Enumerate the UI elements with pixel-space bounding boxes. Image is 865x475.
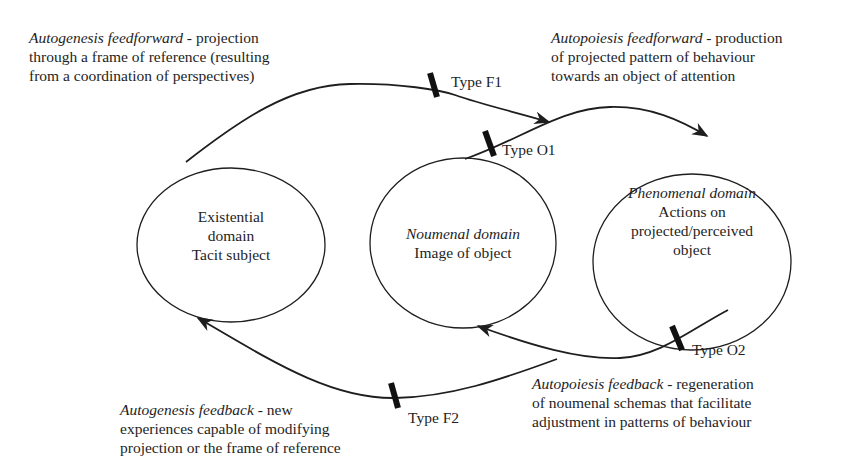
phenomenal-domain-text: Phenomenal domain Actions on projected/p…: [602, 183, 782, 259]
autopoiesis-feedforward-title: Autopoiesis feedforward: [551, 29, 702, 46]
noumenal-title: Noumenal domain: [406, 225, 520, 242]
existential-line-1: Existential: [161, 207, 301, 226]
autogenesis-feedforward-line-3: from a coordination of perspectives): [29, 66, 270, 85]
autogenesis-feedback-annotation: Autogenesis feedback - new experiences c…: [120, 400, 341, 457]
autopoiesis-feedback-line-1: - regeneration: [663, 375, 753, 392]
autogenesis-feedforward-annotation: Autogenesis feedforward - projection thr…: [29, 28, 270, 85]
autogenesis-feedback-title: Autogenesis feedback: [120, 401, 254, 418]
autogenesis-feedforward-line-2: through a frame of reference (resulting: [29, 47, 270, 66]
phenomenal-line-3: object: [602, 240, 782, 259]
type-f2-marker: [391, 383, 398, 408]
autopoiesis-feedback-annotation: Autopoiesis feedback - regeneration of n…: [532, 374, 754, 431]
autogenesis-feedforward-title: Autogenesis feedforward: [29, 29, 183, 46]
existential-line-2: domain: [161, 226, 301, 245]
type-o2-label: Type O2: [692, 340, 746, 359]
noumenal-domain-text: Noumenal domain Image of object: [383, 224, 543, 262]
autopoiesis-feedback-line-3: adjustment in patterns of behaviour: [532, 412, 754, 431]
noumenal-line-1: Image of object: [383, 243, 543, 262]
phenomenal-title: Phenomenal domain: [628, 184, 756, 201]
type-f1-label: Type F1: [451, 72, 502, 91]
autogenesis-feedback-line-2: experiences capable of modifying: [120, 419, 341, 438]
existential-line-3: Tacit subject: [161, 245, 301, 264]
type-f2-label: Type F2: [408, 408, 459, 427]
autogenesis-feedback-line-3: projection or the frame of reference: [120, 438, 341, 457]
autopoiesis-feedback-line-2: of noumenal schemas that facilitate: [532, 393, 754, 412]
phenomenal-line-2: projected/perceived: [602, 221, 782, 240]
type-o1-marker: [485, 131, 494, 156]
type-o1-label: Type O1: [502, 140, 556, 159]
autogenesis-feedforward-line-1: - projection: [183, 29, 259, 46]
phenomenal-line-1: Actions on: [602, 202, 782, 221]
type-f1-marker: [430, 73, 437, 97]
type-f2-arrow: [198, 318, 557, 398]
type-o2-arrow: [478, 310, 728, 358]
autopoiesis-feedforward-line-1: - production: [702, 29, 782, 46]
autopoiesis-feedforward-annotation: Autopoiesis feedforward - production of …: [551, 28, 782, 85]
autogenesis-feedback-line-1: - new: [254, 401, 293, 418]
autopoiesis-feedback-title: Autopoiesis feedback: [532, 375, 663, 392]
autopoiesis-feedforward-line-3: towards an object of attention: [551, 66, 782, 85]
autopoiesis-feedforward-line-2: of projected pattern of behaviour: [551, 47, 782, 66]
existential-domain-text: Existential domain Tacit subject: [161, 207, 301, 264]
